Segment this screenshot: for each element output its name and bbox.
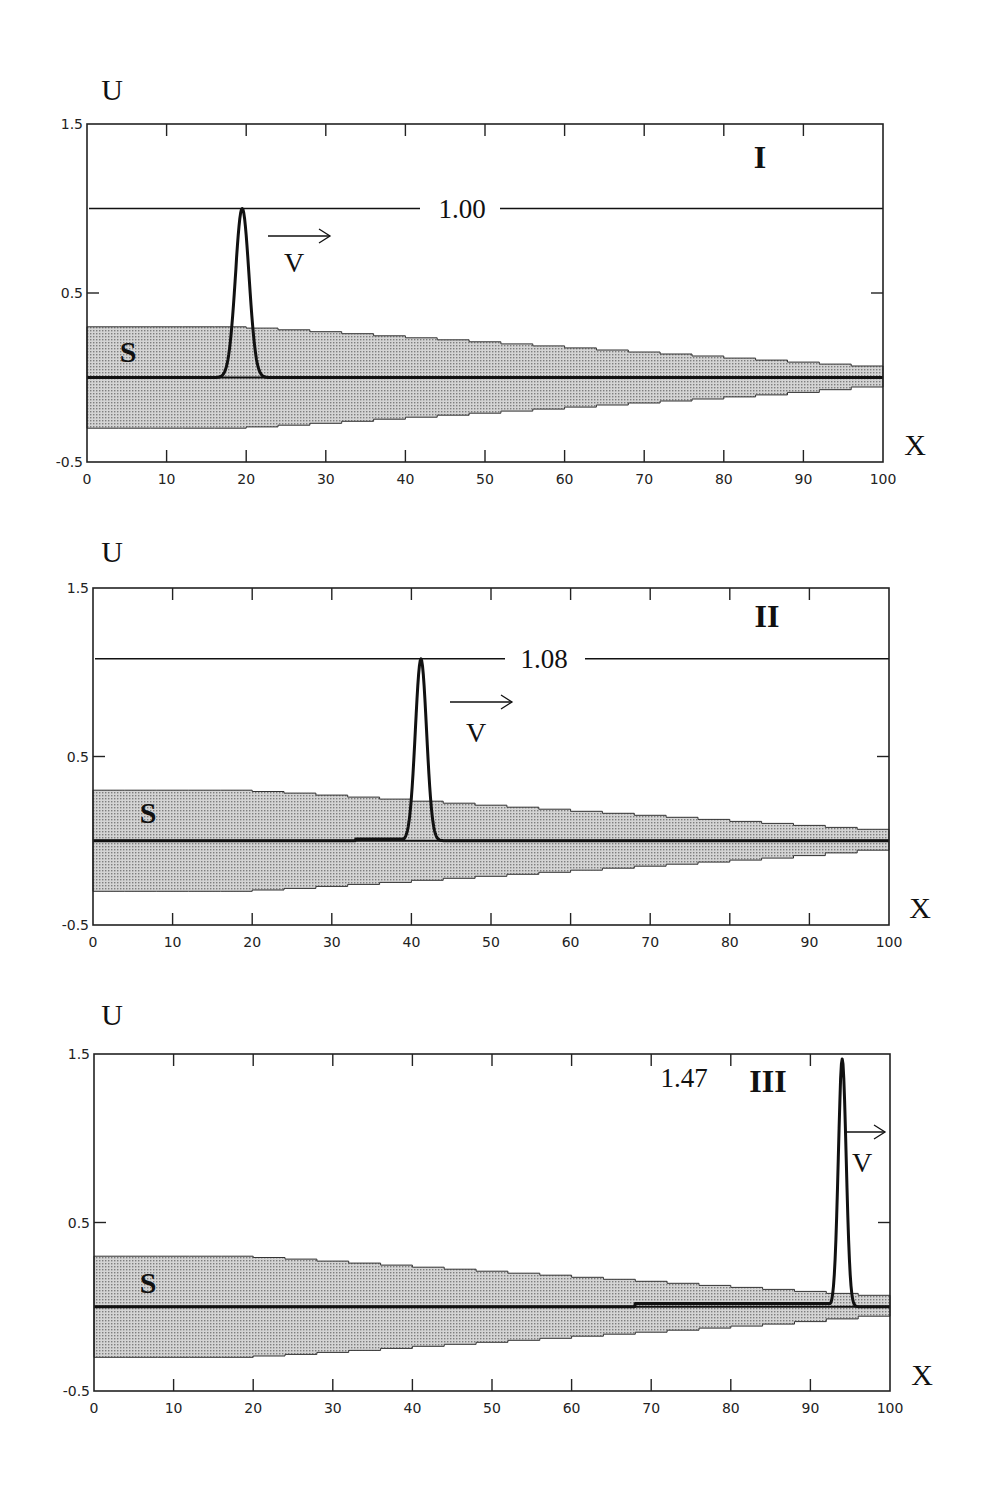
x-tick-label: 90 xyxy=(801,1400,819,1416)
y-axis-label: U xyxy=(101,535,123,568)
x-tick-label: 10 xyxy=(158,471,176,487)
x-tick-label: 80 xyxy=(715,471,733,487)
y-tick-label: 0.5 xyxy=(68,1215,90,1231)
band-s-label: S xyxy=(140,796,157,829)
x-tick-label: 20 xyxy=(237,471,255,487)
panel-iii: 1.470102030405060708090100-0.50.51.5UXII… xyxy=(63,998,933,1416)
x-tick-label: 70 xyxy=(642,1400,660,1416)
x-tick-label: 60 xyxy=(562,934,580,950)
velocity-label: V xyxy=(284,247,304,278)
band-s-label: S xyxy=(120,335,137,368)
panel-i: 1.000102030405060708090100-0.50.51.5UXIS… xyxy=(56,73,926,487)
y-tick-label: 1.5 xyxy=(67,580,89,596)
x-tick-label: 90 xyxy=(794,471,812,487)
y-axis-label: U xyxy=(101,998,123,1031)
y-tick-label: 1.5 xyxy=(61,116,83,132)
panel-id-label: III xyxy=(749,1063,786,1099)
x-tick-label: 40 xyxy=(402,934,420,950)
y-tick-label: -0.5 xyxy=(56,454,83,470)
reference-value-label: 1.00 xyxy=(438,194,485,224)
x-tick-label: 80 xyxy=(721,934,739,950)
x-tick-label: 30 xyxy=(317,471,335,487)
y-axis-label: U xyxy=(101,73,123,106)
x-tick-label: 0 xyxy=(90,1400,99,1416)
x-tick-label: 70 xyxy=(635,471,653,487)
x-tick-label: 40 xyxy=(396,471,414,487)
x-tick-label: 10 xyxy=(165,1400,183,1416)
peak-value-label: 1.47 xyxy=(660,1063,707,1093)
x-tick-label: 50 xyxy=(483,1400,501,1416)
x-axis-label: X xyxy=(904,428,926,461)
velocity-label: V xyxy=(852,1147,872,1178)
x-tick-label: 70 xyxy=(641,934,659,950)
x-tick-label: 60 xyxy=(556,471,574,487)
x-tick-label: 40 xyxy=(403,1400,421,1416)
x-tick-label: 80 xyxy=(722,1400,740,1416)
panel-id-label: II xyxy=(755,598,780,634)
x-tick-label: 100 xyxy=(877,1400,904,1416)
panel-ii: 1.080102030405060708090100-0.50.51.5UXII… xyxy=(62,535,931,950)
x-tick-label: 50 xyxy=(482,934,500,950)
x-tick-label: 30 xyxy=(323,934,341,950)
x-tick-label: 0 xyxy=(89,934,98,950)
figure: 1.000102030405060708090100-0.50.51.5UXIS… xyxy=(0,0,988,1491)
x-axis-label: X xyxy=(911,1358,933,1391)
x-tick-label: 100 xyxy=(876,934,903,950)
y-tick-label: 1.5 xyxy=(68,1046,90,1062)
x-tick-label: 20 xyxy=(243,934,261,950)
panel-id-label: I xyxy=(754,139,766,175)
y-tick-label: -0.5 xyxy=(62,917,89,933)
x-tick-label: 30 xyxy=(324,1400,342,1416)
x-tick-label: 50 xyxy=(476,471,494,487)
band-s-label: S xyxy=(140,1266,157,1299)
reference-value-label: 1.08 xyxy=(520,644,567,674)
y-tick-label: 0.5 xyxy=(61,285,83,301)
x-tick-label: 100 xyxy=(870,471,897,487)
x-tick-label: 10 xyxy=(164,934,182,950)
x-tick-label: 0 xyxy=(83,471,92,487)
x-tick-label: 90 xyxy=(800,934,818,950)
x-tick-label: 20 xyxy=(244,1400,262,1416)
velocity-label: V xyxy=(466,717,486,748)
y-tick-label: 0.5 xyxy=(67,749,89,765)
y-tick-label: -0.5 xyxy=(63,1383,90,1399)
x-tick-label: 60 xyxy=(563,1400,581,1416)
x-axis-label: X xyxy=(909,891,931,924)
